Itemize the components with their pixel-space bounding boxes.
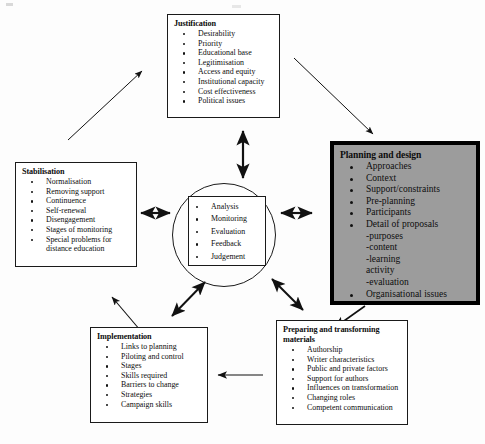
box-justification-title: Justification — [174, 19, 274, 29]
list-item: Political issues — [174, 96, 274, 106]
list-item: Campaign skills — [97, 400, 202, 410]
list-item: Competent communication — [283, 403, 402, 413]
list-item: Support/constraints — [340, 184, 471, 196]
list-item: Desirability — [174, 29, 274, 39]
box-stabilisation-list: Normalisation Removing support Continuen… — [22, 177, 131, 254]
list-item: Normalisation — [22, 177, 131, 187]
diagram-canvas: Justification Desirability Priority Educ… — [0, 0, 485, 444]
list-item: Authorship — [283, 345, 402, 355]
list-item-continuation: distance education — [22, 244, 131, 254]
box-core-list: Analysis Monitoring Evaluation Feedback … — [189, 201, 265, 263]
box-preparing-materials-list: Authorship Writer characteristics Public… — [283, 345, 402, 412]
box-implementation-list: Links to planning Piloting and control S… — [97, 342, 202, 409]
scan-artifact — [6, 3, 13, 6]
box-core[interactable]: Analysis Monitoring Evaluation Feedback … — [188, 196, 266, 266]
connector-justification-to-planning — [294, 58, 373, 134]
sub-item: activity — [340, 265, 471, 277]
box-stabilisation-title: Stabilisation — [22, 167, 131, 177]
list-item: Approaches — [340, 161, 471, 173]
box-preparing-materials-title-line2: materials — [283, 335, 402, 345]
box-preparing-materials-title-line1: Preparing and transforming — [283, 325, 402, 335]
list-item: Removing support — [22, 187, 131, 197]
box-justification-list: Desirability Priority Educational base L… — [174, 29, 274, 106]
list-item: Evaluation — [189, 226, 265, 238]
list-item: Disengagement — [22, 215, 131, 225]
connector-stabilisation-to-justification — [68, 71, 142, 140]
list-item: Self-renewal — [22, 206, 131, 216]
list-item: Detail of proposals — [340, 219, 471, 231]
box-planning-and-design[interactable]: Planning and design Approaches Context S… — [331, 142, 479, 304]
list-item: Barriers to change — [97, 380, 202, 390]
box-implementation-title: Implementation — [97, 332, 202, 342]
box-preparing-materials[interactable]: Preparing and transforming materials Aut… — [276, 320, 408, 425]
sub-item: -content — [340, 242, 471, 254]
list-item: Support for authors — [283, 374, 402, 384]
list-item: Participants — [340, 207, 471, 219]
box-planning-and-design-list: Approaches Context Support/constraints P… — [340, 161, 471, 300]
connector-preparing-core — [272, 279, 303, 310]
list-item: Continuence — [22, 196, 131, 206]
box-implementation[interactable]: Implementation Links to planning Pilotin… — [90, 327, 208, 423]
sub-item: -evaluation — [340, 277, 471, 289]
list-item: Analysis — [189, 201, 265, 213]
list-item: Judgement — [189, 251, 265, 263]
sub-item: -purposes — [340, 231, 471, 243]
list-item: Influences on transformation — [283, 383, 402, 393]
box-stabilisation[interactable]: Stabilisation Normalisation Removing sup… — [15, 162, 137, 267]
list-item: Writer characteristics — [283, 355, 402, 365]
sub-item: -learning — [340, 254, 471, 266]
connector-implementation-core — [172, 282, 205, 316]
list-item: Cost effectiveness — [174, 87, 274, 97]
list-item: Priority — [174, 39, 274, 49]
connector-implementation-to-stabilisation — [112, 297, 140, 330]
list-item: Pre-planning — [340, 196, 471, 208]
list-item: Feedback — [189, 238, 265, 250]
list-item: Stages of monitoring — [22, 225, 131, 235]
list-item: Monitoring — [189, 213, 265, 225]
list-item: Skills required — [97, 371, 202, 381]
scan-artifact — [232, 5, 241, 8]
list-item: Changing roles — [283, 393, 402, 403]
box-justification[interactable]: Justification Desirability Priority Educ… — [167, 14, 280, 118]
list-item: Context — [340, 173, 471, 185]
list-item: Educational base — [174, 48, 274, 58]
list-item: Public and private factors — [283, 364, 402, 374]
list-item: Special problems for — [22, 235, 131, 245]
box-planning-and-design-title: Planning and design — [340, 149, 471, 161]
list-item: Stages — [97, 361, 202, 371]
list-item: Organisational issues — [340, 289, 471, 301]
list-item: Strategies — [97, 390, 202, 400]
list-item: Links to planning — [97, 342, 202, 352]
list-item: Legitimisation — [174, 58, 274, 68]
list-item: Access and equity — [174, 67, 274, 77]
list-item: Institutional capacity — [174, 77, 274, 87]
list-item: Piloting and control — [97, 352, 202, 362]
